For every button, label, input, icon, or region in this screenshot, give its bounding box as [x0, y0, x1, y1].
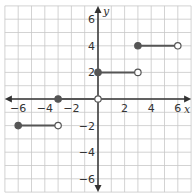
x-tick-label: −4 [37, 102, 53, 115]
x-tick-label: 6 [174, 102, 181, 115]
open-endpoint [55, 122, 61, 128]
closed-endpoint [135, 43, 141, 49]
step-function-graph: −6−4−2246642−2−4−6 x y [0, 0, 194, 193]
closed-endpoint [95, 69, 101, 75]
y-tick-label: −2 [79, 120, 95, 133]
x-axis-right-arrow-icon [184, 96, 191, 103]
closed-endpoint [55, 96, 61, 102]
y-axis-up-arrow-icon [95, 6, 102, 13]
y-axis-label: y [102, 5, 110, 18]
y-tick-label: 2 [88, 66, 95, 79]
x-tick-label: −6 [10, 102, 26, 115]
y-tick-label: −4 [79, 146, 95, 159]
x-tick-label: −2 [63, 102, 79, 115]
y-axis-down-arrow-icon [95, 185, 102, 192]
x-tick-label: 4 [148, 102, 155, 115]
y-tick-label: −6 [79, 173, 95, 186]
open-endpoint [135, 69, 141, 75]
x-tick-label: 2 [121, 102, 128, 115]
y-tick-label: 4 [88, 40, 95, 53]
y-tick-label: 6 [88, 13, 95, 26]
open-endpoint [175, 43, 181, 49]
x-axis-label: x [184, 103, 191, 116]
closed-endpoint [15, 122, 21, 128]
open-endpoint [95, 96, 101, 102]
